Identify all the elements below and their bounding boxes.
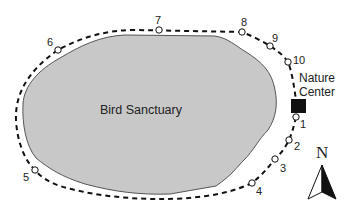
trail-stop-label-7: 7: [155, 14, 161, 26]
trail-stop-label-2: 2: [294, 140, 300, 152]
trail-stop-3: [272, 156, 278, 162]
trail-stop-7: [156, 27, 162, 33]
trail-stop-8: [239, 29, 245, 35]
trail-stop-2: [286, 137, 292, 143]
trail-stop-label-3: 3: [280, 162, 286, 174]
compass-north-label: N: [316, 143, 328, 162]
north-arrow-icon: [308, 165, 336, 199]
trail-stop-label-1: 1: [300, 118, 306, 130]
trail-stop-4: [249, 180, 255, 186]
nature-center-label-line1: Nature: [299, 71, 335, 85]
trail-stop-label-6: 6: [47, 36, 53, 48]
trail-stop-label-8: 8: [241, 16, 247, 28]
trail-map: Bird Sanctuary Nature Center 1 2 3 4 5 6…: [0, 0, 356, 211]
trail-stop-1: [293, 114, 299, 120]
nature-center-label-line2: Center: [299, 85, 335, 99]
bird-sanctuary-label: Bird Sanctuary: [100, 103, 183, 117]
compass: N: [308, 143, 336, 199]
trail-stop-10: [285, 59, 291, 65]
map-canvas: Bird Sanctuary Nature Center 1 2 3 4 5 6…: [0, 0, 356, 211]
nature-center-building: [291, 99, 306, 113]
trail-stop-label-4: 4: [256, 185, 262, 197]
trail-stop-5: [32, 167, 38, 173]
trail-stop-label-10: 10: [293, 54, 305, 66]
trail-stop-6: [55, 47, 61, 53]
trail-stop-label-9: 9: [272, 32, 278, 44]
trail-stop-label-5: 5: [23, 171, 29, 183]
